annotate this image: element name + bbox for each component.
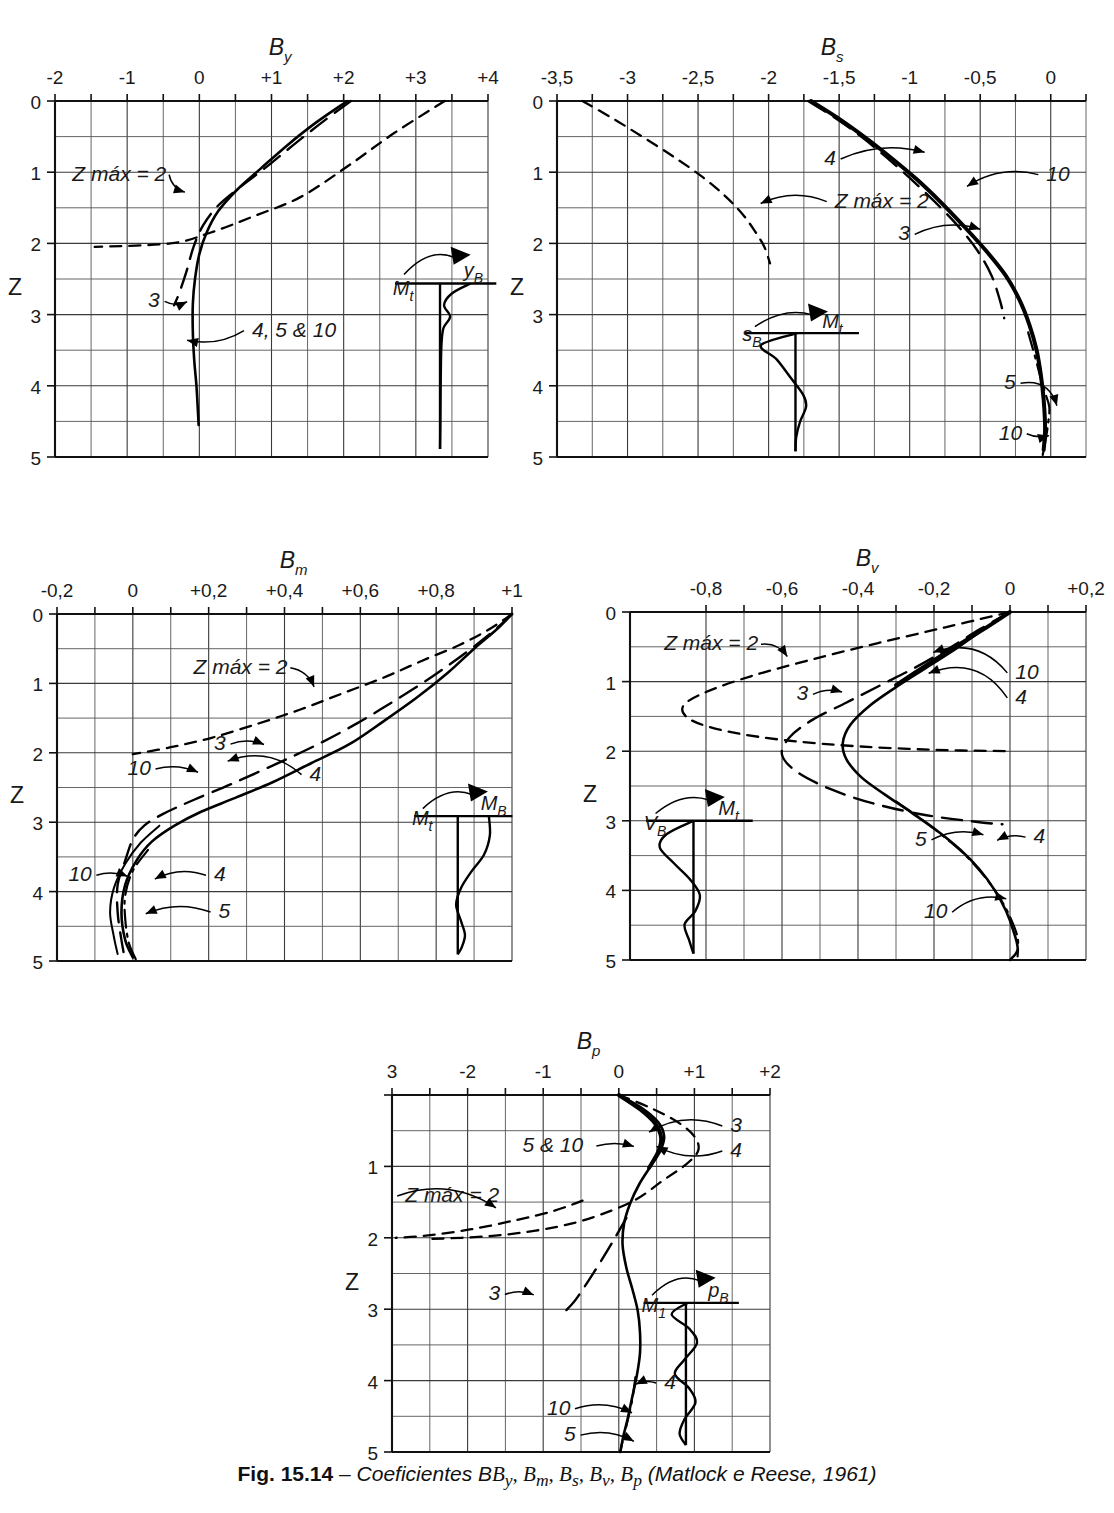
- z-axis: 012345Z: [510, 92, 557, 469]
- z-tick-label: 0: [30, 92, 41, 113]
- x-tick-label: -3,5: [541, 67, 574, 88]
- axis-title-By: By: [269, 34, 293, 65]
- curve-annotation: Z máx = 2: [71, 162, 166, 185]
- inset-right-label: yB: [462, 259, 483, 286]
- z-tick-label: 4: [532, 377, 543, 398]
- inset-left-label: M1: [641, 1294, 665, 1321]
- x-tick-label: -0,4: [842, 578, 875, 599]
- z-tick-label: 3: [532, 306, 543, 327]
- axis-title-Bp: Bp: [577, 1028, 601, 1059]
- x-axis-ticks: [392, 1088, 770, 1095]
- inset-left-label: sB: [742, 323, 761, 350]
- pile-sketch-inset: MtMB: [412, 783, 512, 954]
- x-tick-label: +0,2: [1067, 578, 1105, 599]
- x-tick-label: -2: [47, 67, 64, 88]
- z-tick-label: 4: [30, 377, 41, 398]
- pile-sketch-inset: sBMt: [742, 304, 859, 452]
- z-tick-label: 5: [367, 1443, 378, 1464]
- x-tick-label: +1: [501, 580, 523, 601]
- x-tick-label: 3: [387, 1061, 398, 1082]
- z-axis: 012345Z: [8, 92, 55, 469]
- z-tick-label: 1: [605, 673, 616, 694]
- axis-title-Bs: Bs: [821, 34, 844, 65]
- x-tick-label: -1: [901, 67, 918, 88]
- z-tick-label: 0: [32, 605, 43, 626]
- z-axis-title: Z: [8, 274, 22, 300]
- chart-panel-Bs: -3,5-3-2,5-2-1,5-1-0,50Bs012345ZsBMt410Z…: [495, 29, 1114, 477]
- z-tick-label: 5: [30, 448, 41, 469]
- curve-annotation: 4: [1015, 685, 1027, 708]
- z-axis: 012345Z: [10, 605, 57, 973]
- x-tick-label: -0,8: [690, 578, 723, 599]
- z-tick-label: 5: [532, 448, 543, 469]
- z-tick-label: 4: [32, 883, 43, 904]
- curve-annotation: 5: [1004, 370, 1016, 393]
- z-tick-label: 4: [605, 881, 616, 902]
- figure-number: Fig. 15.14: [237, 1462, 333, 1485]
- x-tick-label: -0,6: [766, 578, 799, 599]
- x-axis-labels: 3-2-10+1+2: [387, 1061, 781, 1082]
- x-tick-label: +3: [405, 67, 427, 88]
- chart-panel-Bm: -0,20+0,2+0,4+0,6+0,8+1Bm012345ZMtMBZ má…: [0, 542, 546, 981]
- z-tick-label: 2: [30, 234, 41, 255]
- inset-left-label: Mt: [393, 277, 415, 304]
- z-axis: 012345Z: [583, 603, 630, 972]
- z-tick-label: 4: [367, 1372, 378, 1393]
- x-tick-label: -3: [619, 67, 636, 88]
- annotations: Z máx = 231041045: [68, 655, 321, 922]
- z-tick-label: 3: [605, 812, 616, 833]
- curve-annotation: Z máx = 2: [834, 189, 929, 212]
- x-tick-label: +0,4: [266, 580, 304, 601]
- curve-annotation: 10: [999, 421, 1023, 444]
- curve-annotation: 4: [214, 862, 226, 885]
- curve-annotation: 4: [1034, 824, 1046, 847]
- curve-annotation: 3: [214, 731, 226, 754]
- x-tick-label: -2,5: [682, 67, 715, 88]
- x-tick-label: 0: [1045, 67, 1056, 88]
- x-tick-label: 0: [194, 67, 205, 88]
- z-tick-label: 2: [605, 742, 616, 763]
- z-tick-label: 0: [605, 603, 616, 624]
- x-tick-label: -2: [760, 67, 777, 88]
- curve-annotation: 4, 5 & 10: [252, 318, 336, 341]
- axis-title-Bm: Bm: [280, 547, 308, 578]
- curve-annotation: 4: [824, 146, 836, 169]
- curve-annotation: Z máx = 2: [663, 631, 758, 654]
- curve-annotation: 5 & 10: [522, 1133, 583, 1156]
- curve-By-4-5-10: [193, 101, 348, 425]
- z-tick-label: 2: [532, 234, 543, 255]
- x-tick-label: +0,2: [190, 580, 228, 601]
- curve-annotation: 3: [148, 288, 160, 311]
- annotations: 410Z máx = 23510: [761, 145, 1070, 444]
- x-axis-labels: -0,20+0,2+0,4+0,6+0,8+1: [41, 580, 523, 601]
- curve-Bp-3-lower: [566, 1218, 626, 1311]
- x-tick-label: -1: [535, 1061, 552, 1082]
- x-axis-labels: -0,8-0,6-0,4-0,20+0,2: [690, 578, 1105, 599]
- chart-panel-Bv: -0,8-0,6-0,4-0,20+0,2Bv012345ZVBMtZ máx …: [568, 540, 1114, 980]
- curve-annotation: 4: [730, 1138, 742, 1161]
- x-tick-label: +1: [684, 1061, 706, 1082]
- x-tick-label: -0,5: [964, 67, 997, 88]
- x-tick-label: +1: [261, 67, 283, 88]
- curve-annotation: 10: [68, 862, 92, 885]
- annotations: Z máx = 234, 5 & 10: [71, 162, 336, 347]
- curve-annotation: 10: [1015, 660, 1039, 683]
- z-tick-label: 1: [367, 1157, 378, 1178]
- curve-annotation: 5: [915, 827, 927, 850]
- curve-Bm-5: [125, 850, 148, 961]
- curve-annotation: 3: [730, 1113, 742, 1136]
- plot-grid: [55, 101, 488, 457]
- pile-sketch-inset: MtyB: [393, 247, 497, 449]
- curve-annotation: 5: [564, 1422, 576, 1445]
- chart-panel-By: -2-10+1+2+3+4By012345ZMtyBZ máx = 234, 5…: [0, 29, 522, 477]
- z-axis-title: Z: [583, 781, 597, 807]
- annotations: 35 & 104Z máx = 234105: [397, 1113, 742, 1445]
- x-tick-label: -2: [459, 1061, 476, 1082]
- x-tick-label: -1: [119, 67, 136, 88]
- curves: [95, 101, 445, 425]
- curve-annotation: 3: [898, 221, 910, 244]
- axis-title-Bv: Bv: [856, 545, 880, 576]
- curve-annotation: 10: [547, 1396, 571, 1419]
- z-tick-label: 3: [30, 306, 41, 327]
- z-tick-label: 5: [605, 951, 616, 972]
